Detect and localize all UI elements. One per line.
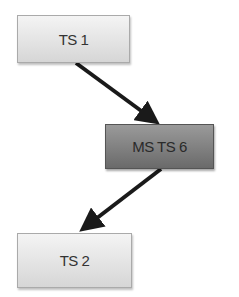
arrow-ts1-to-msts6 xyxy=(76,63,155,121)
node-label: TS 1 xyxy=(59,31,89,48)
node-ts1[interactable]: TS 1 xyxy=(17,15,130,63)
node-label: TS 2 xyxy=(60,252,90,269)
node-ts2[interactable]: TS 2 xyxy=(17,233,132,288)
node-label: MS TS 6 xyxy=(132,138,187,155)
node-ms-ts6[interactable]: MS TS 6 xyxy=(105,124,214,169)
arrow-msts6-to-ts2 xyxy=(84,169,161,228)
